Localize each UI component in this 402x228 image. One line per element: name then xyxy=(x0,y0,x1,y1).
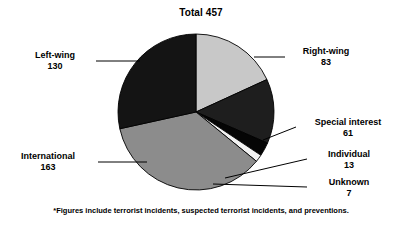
pie-label-left-wing-value: 130 xyxy=(18,61,92,72)
pie-chart-figure: Total 457 Left-wing 130 International 16… xyxy=(0,0,402,228)
pie-label-right-wing-category: Right-wing xyxy=(288,46,364,57)
pie-label-unknown: Unknown 7 xyxy=(310,177,388,199)
pie-label-individual-value: 13 xyxy=(310,160,388,171)
pie-label-right-wing: Right-wing 83 xyxy=(288,46,364,68)
pie-label-international: International 163 xyxy=(2,151,94,173)
pie-label-right-wing-value: 83 xyxy=(288,57,364,68)
pie-label-international-category: International xyxy=(2,151,94,162)
pie-label-left-wing: Left-wing 130 xyxy=(18,50,92,72)
pie-label-unknown-category: Unknown xyxy=(310,177,388,188)
pie-slice-left-wing[interactable] xyxy=(118,34,196,129)
pie-label-left-wing-category: Left-wing xyxy=(18,50,92,61)
pie-slice-group xyxy=(118,34,274,190)
leader-line-unknown xyxy=(213,184,307,187)
pie-label-special-interest-value: 61 xyxy=(298,128,398,139)
chart-footnote: *Figures include terrorist incidents, su… xyxy=(0,206,402,215)
pie-label-individual-category: Individual xyxy=(310,149,388,160)
pie-label-special-interest: Special interest 61 xyxy=(298,117,398,139)
pie-label-individual: Individual 13 xyxy=(310,149,388,171)
pie-label-unknown-value: 7 xyxy=(310,188,388,199)
pie-label-special-interest-category: Special interest xyxy=(298,117,398,128)
pie-label-international-value: 163 xyxy=(2,162,94,173)
